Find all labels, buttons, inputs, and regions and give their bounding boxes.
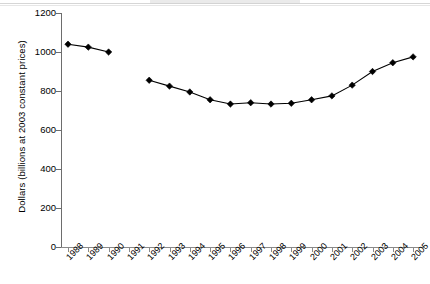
data-point <box>65 41 71 47</box>
data-point <box>268 101 274 107</box>
data-point <box>85 44 91 50</box>
data-point <box>410 54 416 60</box>
data-point <box>369 68 375 74</box>
data-point <box>207 97 213 103</box>
data-point <box>390 60 396 66</box>
data-point <box>146 77 152 83</box>
data-point <box>166 83 172 89</box>
data-point <box>308 97 314 103</box>
data-point <box>248 100 254 106</box>
data-point <box>187 89 193 95</box>
series-line <box>68 44 413 104</box>
chart-container: Dollars (billions at 2003 constant price… <box>0 0 430 284</box>
series-markers <box>65 41 417 107</box>
data-point <box>349 82 355 88</box>
series-plot <box>0 0 430 284</box>
data-point <box>329 93 335 99</box>
data-point <box>227 101 233 107</box>
data-point <box>105 49 111 55</box>
data-point <box>288 100 294 106</box>
